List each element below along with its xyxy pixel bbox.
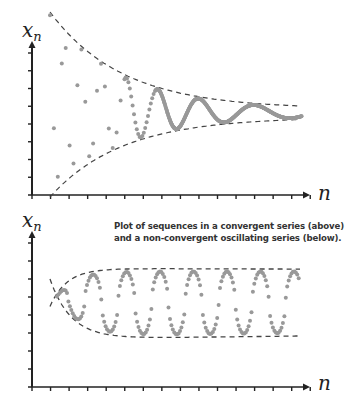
bottom-data-point (98, 286, 102, 290)
bottom-data-point (197, 278, 201, 282)
bottom-data-point (235, 318, 239, 322)
bottom-data-point (148, 317, 152, 321)
top-data-point (56, 175, 60, 179)
bottom-data-point (165, 287, 169, 291)
bottom-data-point (237, 323, 241, 327)
bottom-data-point (169, 323, 173, 327)
top-x-axis-label: n (318, 183, 331, 203)
bottom-data-point (119, 278, 123, 282)
bottom-data-point (115, 313, 119, 317)
top-data-point (95, 89, 99, 93)
bottom-data-point (145, 328, 149, 332)
bottom-data-point (129, 277, 133, 281)
bottom-data-point (128, 273, 132, 277)
top-data-point (146, 114, 150, 118)
bottom-data-point (201, 313, 205, 317)
bottom-data-point (232, 288, 236, 292)
top-data-point (75, 83, 79, 87)
top-data-point (150, 96, 154, 100)
caption-line-2: and a non-convergent oscillating series … (114, 232, 354, 244)
bottom-data-point (287, 278, 291, 282)
bottom-data-point (184, 292, 188, 296)
bottom-data-point (81, 311, 85, 315)
bottom-data-point (164, 280, 168, 284)
bottom-data-point (295, 273, 299, 277)
bottom-data-point (198, 283, 202, 287)
bottom-data-point (181, 320, 185, 324)
bottom-data-point (152, 280, 156, 284)
bottom-data-point (284, 296, 288, 300)
bottom-data-point (202, 321, 206, 325)
top-data-point (60, 61, 64, 65)
bottom-data-point (95, 276, 99, 280)
bottom-data-point (262, 274, 266, 278)
bottom-data-point (218, 286, 222, 290)
bottom-data-point (101, 313, 105, 317)
bottom-data-point (178, 329, 182, 333)
bottom-data-point (147, 324, 151, 328)
top-data-point (79, 48, 83, 52)
bottom-data-point (248, 319, 252, 323)
top-data-point (83, 100, 87, 104)
bottom-data-point (297, 276, 301, 280)
bottom-data-point (66, 299, 70, 303)
bottom-data-point (204, 326, 208, 330)
bottom-data-point (281, 321, 285, 325)
bottom-data-point (97, 280, 101, 284)
bottom-data-point (135, 320, 139, 324)
bottom-y-axis-label: xn (22, 210, 42, 233)
top-data-point (107, 127, 111, 131)
bottom-data-point (162, 275, 166, 279)
bottom-data-point (245, 328, 249, 332)
bottom-data-point (254, 277, 258, 281)
top-data-point (128, 87, 132, 91)
bottom-data-point (215, 316, 219, 320)
bottom-data-point (268, 314, 272, 318)
top-x-axis-arrow-icon (303, 192, 310, 199)
bottom-data-point (270, 321, 274, 325)
bottom-lower-envelope (50, 279, 300, 337)
top-data-point (103, 85, 107, 89)
top-upper-envelope (50, 12, 300, 106)
bottom-data-point (217, 303, 221, 307)
bottom-x-axis-label: n (318, 373, 331, 393)
bottom-data-point (219, 279, 223, 283)
top-data-point (48, 13, 52, 17)
bottom-data-point (137, 325, 141, 329)
bottom-data-point (134, 312, 138, 316)
bottom-data-point (168, 317, 172, 321)
top-data-point (133, 120, 137, 124)
bottom-data-point (182, 312, 186, 316)
bottom-data-point (118, 284, 122, 288)
bottom-data-point (179, 326, 183, 330)
top-data-point (145, 120, 149, 124)
bottom-data-point (267, 295, 271, 299)
top-data-point (131, 103, 135, 107)
bottom-data-point (185, 283, 189, 287)
bottom-data-point (230, 276, 234, 280)
bottom-data-point (282, 314, 286, 318)
bottom-data-point (112, 325, 116, 329)
top-data-point (87, 154, 91, 158)
bottom-data-point (187, 277, 191, 281)
top-data-point (119, 98, 123, 102)
caption-line-1: Plot of sequences in a convergent series… (114, 220, 354, 232)
bottom-data-point (117, 294, 121, 298)
bottom-data-point (231, 281, 235, 285)
top-data-point (149, 102, 153, 106)
top-data-point (142, 131, 146, 135)
bottom-data-point (285, 285, 289, 289)
bottom-data-point (251, 290, 255, 294)
bottom-data-point (199, 293, 203, 297)
top-data-point (115, 130, 119, 134)
top-y-axis-label: xn (22, 20, 42, 43)
top-data-point (135, 127, 139, 131)
top-data-point (72, 161, 76, 165)
top-data-point (99, 62, 103, 66)
top-data-point (129, 95, 133, 99)
bottom-data-point (252, 282, 256, 286)
top-data-point (91, 142, 95, 146)
bottom-data-point (247, 324, 251, 328)
bottom-data-point (264, 278, 268, 282)
bottom-data-point (214, 323, 218, 327)
